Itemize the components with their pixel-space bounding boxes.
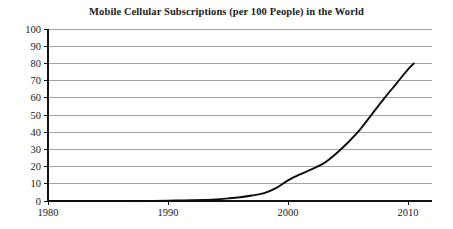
y-tick-label: 80 <box>31 58 42 69</box>
y-tick-label: 30 <box>31 144 42 155</box>
y-tick-label: 70 <box>31 75 42 86</box>
line-chart-plot: 0102030405060708090100 1980199020002010 <box>0 0 453 229</box>
y-axis-ticks: 0102030405060708090100 <box>25 24 48 207</box>
x-axis-ticks: 1980199020002010 <box>38 201 419 218</box>
y-tick-label: 0 <box>36 196 41 207</box>
x-tick-label: 1990 <box>158 207 179 218</box>
x-tick-label: 2010 <box>398 207 419 218</box>
y-tick-label: 40 <box>31 127 42 138</box>
y-tick-label: 20 <box>31 161 42 172</box>
y-tick-label: 60 <box>31 92 42 103</box>
y-tick-label: 50 <box>31 110 42 121</box>
chart-figure: Mobile Cellular Subscriptions (per 100 P… <box>0 0 453 229</box>
gridlines <box>48 29 432 184</box>
x-tick-label: 1980 <box>38 207 59 218</box>
x-tick-label: 2000 <box>278 207 299 218</box>
y-tick-label: 10 <box>31 178 42 189</box>
y-tick-label: 100 <box>25 24 41 35</box>
y-tick-label: 90 <box>31 41 42 52</box>
